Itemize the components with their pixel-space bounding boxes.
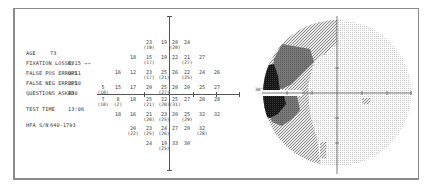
threshold-repeat-value: (27) (180, 60, 194, 65)
info-label: HFA S/N (26, 122, 49, 128)
threshold-value: 18 (130, 96, 136, 102)
info-value: 73 (50, 50, 56, 56)
info-value: 640-1793 (50, 122, 76, 128)
threshold-value: 27 (199, 54, 205, 60)
threshold-value: 22 (172, 54, 178, 60)
threshold-value: 24 (199, 69, 205, 75)
axis-tick (167, 170, 172, 171)
threshold-cell: 20(22) (126, 126, 140, 136)
threshold-cell: 26 (210, 70, 224, 75)
threshold-cell: 17 (126, 85, 140, 90)
threshold-value: 19 (161, 39, 167, 45)
threshold-value: 32 (199, 111, 205, 117)
threshold-cell: 16 (111, 70, 125, 75)
threshold-value: 24 (184, 39, 190, 45)
threshold-repeat-value: (10) (96, 90, 110, 95)
threshold-repeat-value: (25) (142, 131, 156, 136)
threshold-repeat-value: (22) (126, 131, 140, 136)
threshold-cell: 20 (142, 85, 156, 90)
threshold-cell: 23(17) (142, 70, 156, 80)
threshold-repeat-value: (10) (96, 102, 110, 107)
info-label: AGE (26, 50, 36, 56)
threshold-repeat-value: (20) (142, 117, 156, 122)
threshold-cell: 23(25) (142, 126, 156, 136)
threshold-value: 16 (130, 111, 136, 117)
threshold-cell: 18 (111, 112, 125, 117)
threshold-value: 33 (172, 140, 178, 146)
axis-tick (167, 16, 172, 17)
threshold-value: 28 (214, 96, 220, 102)
threshold-cell: 32 (210, 112, 224, 117)
info-row-false-pos-errors: FALSE POS ERRORS0/11 (26, 70, 78, 76)
info-row-fixation-losses: FIXATION LOSSES6/15 →→ (26, 60, 74, 66)
info-row-hfa-s-n: HFA S/N640-1793 (26, 122, 49, 128)
greyscale-plot: 30° (262, 14, 412, 174)
axis-tick (239, 92, 240, 97)
threshold-repeat-value: (19) (142, 45, 156, 50)
threshold-value: 12 (130, 69, 136, 75)
threshold-cell: 18 (126, 55, 140, 60)
threshold-value: 20 (172, 84, 178, 90)
threshold-cell: 25 (195, 85, 209, 90)
threshold-cell: 27 (180, 97, 194, 102)
threshold-repeat-value: (2) (111, 102, 125, 107)
threshold-cell: 21(20) (142, 112, 156, 122)
threshold-repeat-value: (21) (157, 75, 171, 80)
threshold-repeat-value: (25) (180, 75, 194, 80)
info-row-age: AGE73 (26, 50, 36, 56)
threshold-cell: 5(10) (96, 85, 110, 95)
info-value: 6/15 →→ (68, 60, 91, 66)
info-row-questions-asked: QUESTIONS ASKED430 (26, 90, 74, 96)
threshold-value: 32 (214, 111, 220, 117)
threshold-cell: 24 (195, 70, 209, 75)
threshold-cell: 20 (180, 85, 194, 90)
threshold-cell: 18 (126, 97, 140, 102)
threshold-cell: 25(21) (142, 97, 156, 107)
threshold-repeat-value: (29) (180, 117, 194, 122)
threshold-value: 24 (146, 140, 152, 146)
threshold-repeat-value: (26) (157, 131, 171, 136)
threshold-value: 27 (184, 96, 190, 102)
threshold-cell: 29 (180, 126, 194, 131)
threshold-cell: 12 (126, 70, 140, 75)
threshold-cell: 7(10) (96, 97, 110, 107)
threshold-cell: 8(2) (111, 97, 125, 107)
threshold-value: 26 (214, 69, 220, 75)
threshold-repeat-value: (20) (168, 45, 182, 50)
threshold-repeat-value: (25) (157, 146, 171, 151)
threshold-cell: 32 (195, 112, 209, 117)
threshold-cell: 23(19) (142, 40, 156, 50)
threshold-value: 27 (214, 84, 220, 90)
info-row-test-time: TEST TIME13:06 (26, 106, 55, 112)
threshold-repeat-value: (31) (168, 102, 182, 107)
threshold-repeat-value: (27) (157, 90, 171, 95)
threshold-cell: 15 (111, 85, 125, 90)
threshold-value: 25 (199, 84, 205, 90)
threshold-value: 17 (130, 84, 136, 90)
threshold-value: 15 (115, 84, 121, 90)
threshold-repeat-value: (17) (142, 60, 156, 65)
threshold-value: 26 (172, 69, 178, 75)
info-label: TEST TIME (26, 106, 55, 112)
greyscale-axis-label: 30° (255, 87, 263, 92)
threshold-value: 28 (199, 96, 205, 102)
threshold-cell: 25(29) (180, 112, 194, 122)
greyscale-field-map (262, 14, 412, 174)
threshold-repeat-value: (17) (142, 75, 156, 80)
threshold-value: 20 (184, 84, 190, 90)
threshold-cell: 27 (210, 85, 224, 90)
info-value: 430 (68, 90, 78, 96)
threshold-cell: 28 (195, 97, 209, 102)
threshold-repeat-value: (25) (157, 117, 171, 122)
threshold-repeat-value: (21) (142, 102, 156, 107)
threshold-value: 18 (115, 111, 121, 117)
threshold-cell: 16 (126, 112, 140, 117)
threshold-value: 18 (130, 54, 136, 60)
threshold-cell: 21(27) (180, 55, 194, 65)
threshold-value: 16 (115, 69, 121, 75)
threshold-cell: 15(17) (142, 55, 156, 65)
threshold-cell: 32(28) (195, 126, 209, 136)
threshold-cell: 24 (180, 40, 194, 45)
info-row-false-neg-errors: FALSE NEG ERRORS2/10 (26, 80, 78, 86)
threshold-value: 19 (161, 54, 167, 60)
